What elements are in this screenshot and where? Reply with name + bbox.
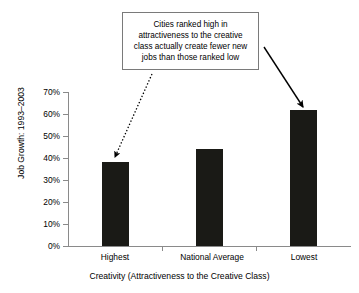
y-tick-mark-20 <box>63 202 68 203</box>
y-tick-mark-0 <box>63 246 68 247</box>
y-tick-label-30: 30% <box>20 175 60 185</box>
x-tick-label-national-average: National Average <box>155 252 269 262</box>
x-tick-label-lowest: Lowest <box>262 252 346 262</box>
annotation-callout-box: Cities ranked high in attractiveness to … <box>122 12 259 70</box>
y-tick-label-0: 0% <box>20 241 60 251</box>
x-tick-mark-2 <box>256 246 257 251</box>
y-tick-mark-40 <box>63 158 68 159</box>
annotation-line-2: attractiveness to the creative <box>138 31 242 40</box>
arrow-to-lowest-bar <box>264 47 303 107</box>
y-tick-label-70: 70% <box>20 87 60 97</box>
y-tick-label-60: 60% <box>20 109 60 119</box>
y-tick-mark-30 <box>63 180 68 181</box>
annotation-line-4: jobs than those ranked low <box>142 53 239 62</box>
y-tick-mark-60 <box>63 114 68 115</box>
annotation-line-3: class actually create fewer new <box>134 42 247 51</box>
bar-chart-figure: Cities ranked high in attractiveness to … <box>0 0 359 293</box>
y-tick-label-10: 10% <box>20 219 60 229</box>
x-tick-label-highest: Highest <box>70 252 160 262</box>
annotation-line-1: Cities ranked high in <box>153 20 227 29</box>
arrow-to-highest-bar <box>115 74 152 157</box>
y-tick-mark-10 <box>63 224 68 225</box>
y-tick-label-40: 40% <box>20 153 60 163</box>
bar-lowest[interactable] <box>290 110 317 246</box>
y-tick-mark-70 <box>63 92 68 93</box>
x-axis-line <box>68 246 351 247</box>
y-axis-line <box>68 92 69 247</box>
x-axis-title: Creativity (Attractiveness to the Creati… <box>0 271 359 281</box>
y-tick-label-20: 20% <box>20 197 60 207</box>
bar-highest[interactable] <box>102 162 129 246</box>
y-tick-mark-50 <box>63 136 68 137</box>
bar-national-average[interactable] <box>196 149 223 246</box>
x-tick-mark-1 <box>162 246 163 251</box>
y-axis-title: Job Growth: 1993–2003 <box>16 68 26 198</box>
annotation-callout-text: Cities ranked high in attractiveness to … <box>130 19 251 64</box>
y-tick-label-50: 50% <box>20 131 60 141</box>
